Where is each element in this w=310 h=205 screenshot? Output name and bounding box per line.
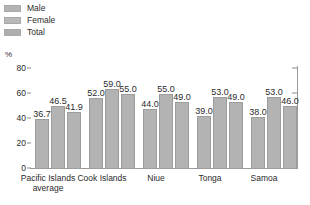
bar-male: 52.0 xyxy=(89,98,103,169)
legend-label-total: Total xyxy=(27,28,45,37)
bar-total: 55.0 xyxy=(121,94,135,169)
bar-value-label: 41.9 xyxy=(65,102,83,112)
y-tick-label-0: 0 xyxy=(21,163,26,173)
bar-value-label: 49.0 xyxy=(173,92,191,102)
bar-female: 46.5 xyxy=(51,106,65,169)
y-tick-label-60: 60 xyxy=(17,88,26,98)
bar-male: 38.0 xyxy=(251,117,265,169)
legend-label-female: Female xyxy=(27,16,55,25)
bar-value-label: 53.0 xyxy=(265,87,283,97)
bar-female: 55.0 xyxy=(159,94,173,169)
bar-group-niue: 44.0 55.0 49.0 xyxy=(143,60,189,169)
bar-total: 46.0 xyxy=(283,106,297,169)
bar-group-samoa: 38.0 53.0 46.0 xyxy=(251,60,297,169)
bar-female: 53.0 xyxy=(267,97,281,169)
bar-value-label: 44.0 xyxy=(141,99,159,109)
bar-value-label: 46.0 xyxy=(281,96,299,106)
bar-total: 41.9 xyxy=(67,112,81,169)
y-tick-label-40: 40 xyxy=(17,113,26,123)
bar-chart: Male Female Total % 0 20 40 60 80 36.7 xyxy=(0,0,310,205)
bar-group-pacific-islands-average: 36.7 46.5 41.9 xyxy=(35,60,81,169)
bar-female: 59.0 xyxy=(105,89,119,169)
y-tick-label-20: 20 xyxy=(17,138,26,148)
bar-value-label: 55.0 xyxy=(119,84,137,94)
bar-value-label: 59.0 xyxy=(103,79,121,89)
bar-male: 39.0 xyxy=(197,116,211,169)
x-category-label-samoa: Samoa xyxy=(229,173,299,183)
bar-total: 49.0 xyxy=(175,102,189,169)
bar-value-label: 55.0 xyxy=(157,84,175,94)
bar-group-tonga: 39.0 53.0 49.0 xyxy=(197,60,243,169)
bar-total: 49.0 xyxy=(229,102,243,169)
bar-value-label: 36.7 xyxy=(33,109,51,119)
bar-female: 53.0 xyxy=(213,97,227,169)
bar-value-label: 53.0 xyxy=(211,87,229,97)
bar-value-label: 39.0 xyxy=(195,106,213,116)
bar-group-cook-islands: 52.0 59.0 55.0 xyxy=(89,60,135,169)
plot-area: 36.7 46.5 41.9 52.0 59.0 55.0 44.0 xyxy=(30,60,298,169)
bar-male: 44.0 xyxy=(143,109,157,169)
bar-value-label: 49.0 xyxy=(227,92,245,102)
y-tick-label-80: 80 xyxy=(17,63,26,73)
legend-label-male: Male xyxy=(27,4,45,13)
bar-male: 36.7 xyxy=(35,119,49,169)
bar-value-label: 52.0 xyxy=(87,88,105,98)
bar-value-label: 38.0 xyxy=(249,107,267,117)
bar-value-label: 46.5 xyxy=(49,96,67,106)
